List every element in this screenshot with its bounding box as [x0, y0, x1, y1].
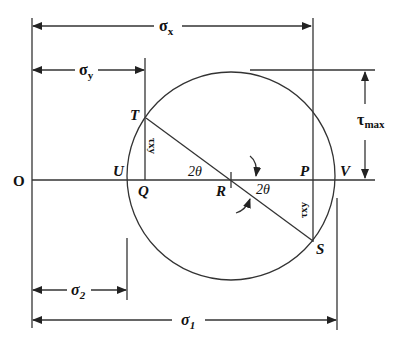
sigma-1-label: σ1 [181, 311, 195, 331]
sigma-2-label: σ2 [71, 281, 86, 301]
shear-label-txy-left: τxy [147, 138, 159, 155]
angle-arrow-lower [236, 199, 250, 213]
sigma-x-label: σx [159, 17, 174, 37]
point-label-p: P [300, 163, 310, 179]
angle-arrow-upper [250, 156, 256, 176]
shear-label-txy-right: τxy [297, 201, 309, 218]
point-label-u: U [113, 163, 125, 179]
angle-label-2theta-upper: 2θ [188, 164, 202, 179]
origin-label-o: O [13, 173, 25, 189]
tau-max-label: τmax [357, 111, 385, 130]
point-label-r: R [215, 183, 226, 199]
point-label-q: Q [138, 183, 149, 199]
sigma-y-label: σy [79, 61, 94, 81]
point-label-t: T [130, 107, 140, 123]
angle-label-2theta-lower: 2θ [256, 182, 270, 197]
point-label-s: S [316, 241, 324, 257]
point-label-v: V [340, 163, 352, 179]
mohr-circle-diagram: σx σy τmax σ2 σ1 O T U Q R P V S 2θ 2θ τ… [0, 0, 401, 345]
